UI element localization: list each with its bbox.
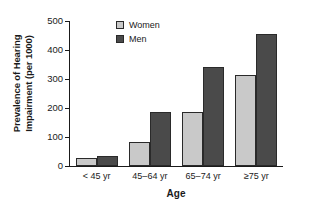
hearing-impairment-bar-chart: Prevalence of Hearing Impairment (per 10… — [0, 0, 316, 215]
y-tick-label: 100 — [33, 131, 63, 143]
bar-women-0 — [76, 158, 97, 166]
bar-group — [235, 21, 277, 166]
legend-item-women: Women — [116, 19, 160, 31]
y-tick-mark — [65, 137, 69, 138]
x-tick-label-3: ≥75 yr — [224, 171, 288, 181]
y-tick-label: 400 — [33, 44, 63, 56]
legend-label-men: Men — [129, 34, 147, 44]
bar-men-3 — [256, 34, 277, 166]
bar-men-0 — [97, 156, 118, 166]
y-tick-mark — [65, 21, 69, 22]
x-axis-line — [69, 166, 283, 167]
bar-women-1 — [129, 142, 150, 166]
legend-item-men: Men — [116, 33, 160, 45]
y-tick-label: 200 — [33, 102, 63, 114]
y-tick-mark — [65, 108, 69, 109]
y-axis-title-line-1: Prevalence of Hearing — [11, 10, 23, 158]
bar-men-2 — [203, 67, 224, 166]
legend-label-women: Women — [129, 20, 160, 30]
x-axis-title: Age — [69, 188, 283, 199]
bar-men-1 — [150, 112, 171, 166]
y-tick-mark — [65, 50, 69, 51]
y-axis-title-line-2: Impairment (per 1000) — [22, 10, 34, 158]
legend-swatch-women-icon — [116, 21, 124, 29]
y-tick-mark — [65, 79, 69, 80]
bar-group — [182, 21, 224, 166]
y-tick-label: 500 — [33, 15, 63, 27]
plot-area: 0100200300400500 < 45 yr45–64 yr65–74 yr… — [69, 21, 283, 167]
y-tick-label: 300 — [33, 73, 63, 85]
bar-women-2 — [182, 112, 203, 166]
y-tick-label: 0 — [33, 160, 63, 172]
bar-groups — [70, 21, 283, 166]
legend-swatch-men-icon — [116, 35, 124, 43]
y-tick-mark — [65, 166, 69, 167]
chart-legend: Women Men — [116, 19, 160, 47]
bar-group — [76, 21, 118, 166]
bar-women-3 — [235, 75, 256, 166]
